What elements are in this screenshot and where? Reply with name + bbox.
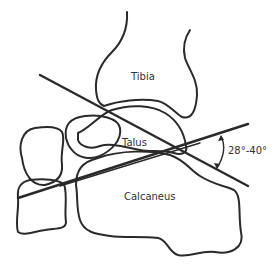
tibia-label: Tibia <box>130 71 155 82</box>
ankle-diagram: Tibia Talus Calcaneus 28°-40° <box>0 0 280 270</box>
tibia-outline <box>96 12 197 118</box>
calcaneal-axis-line-2 <box>60 143 200 186</box>
calcaneus-label: Calcaneus <box>124 191 176 202</box>
tibial-axis-line <box>40 75 248 186</box>
arc-arrow-top <box>218 135 224 141</box>
calcaneal-axis-line <box>18 124 248 198</box>
talus-label: Talus <box>121 137 147 148</box>
cuboid-outline <box>17 179 66 233</box>
navicular-outline <box>21 127 64 185</box>
angle-label: 28°-40° <box>228 145 267 156</box>
angle-arc <box>217 136 224 168</box>
